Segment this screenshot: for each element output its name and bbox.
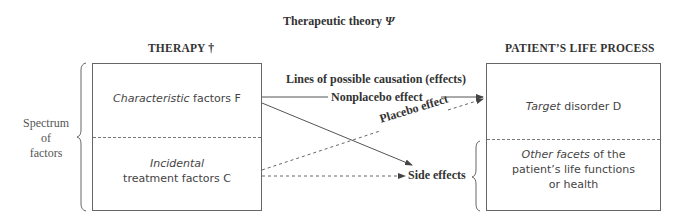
placebo-arrow <box>262 131 380 170</box>
characteristic-to-side-effects-arrow <box>262 103 412 165</box>
diagram-lines <box>0 0 676 222</box>
left-brace-icon <box>77 63 86 211</box>
